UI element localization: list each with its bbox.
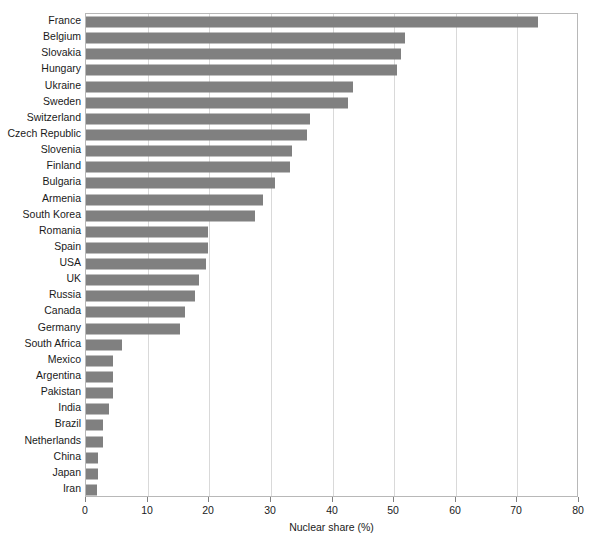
bar-row <box>86 62 577 78</box>
bar-canada <box>86 307 185 318</box>
bar-south-africa <box>86 339 122 350</box>
bar-usa <box>86 259 206 270</box>
bar-mexico <box>86 355 113 366</box>
category-label-belgium: Belgium <box>43 31 81 42</box>
bar-ukraine <box>86 81 353 92</box>
category-label-argentina: Argentina <box>36 370 81 381</box>
category-label-pakistan: Pakistan <box>41 386 81 397</box>
bar-row <box>86 159 577 175</box>
category-label-germany: Germany <box>38 322 81 333</box>
bar-bulgaria <box>86 178 275 189</box>
category-label-finland: Finland <box>47 160 81 171</box>
bar-row <box>86 450 577 466</box>
x-tick-label-40: 40 <box>326 504 338 516</box>
category-label-bulgaria: Bulgaria <box>42 176 81 187</box>
x-tick-0 <box>85 497 86 502</box>
bar-row <box>86 30 577 46</box>
bar-row <box>86 337 577 353</box>
bar-belgium <box>86 33 405 44</box>
x-tick-20 <box>208 497 209 502</box>
bar-japan <box>86 468 98 479</box>
x-tick-label-10: 10 <box>141 504 153 516</box>
category-label-slovenia: Slovenia <box>41 144 81 155</box>
category-label-japan: Japan <box>52 467 81 478</box>
category-axis-labels: FranceBelgiumSlovakiaHungaryUkraineSwede… <box>0 13 81 497</box>
bar-uk <box>86 275 199 286</box>
category-label-sweden: Sweden <box>43 96 81 107</box>
bar-argentina <box>86 371 113 382</box>
category-label-india: India <box>58 402 81 413</box>
bar-finland <box>86 162 290 173</box>
bar-armenia <box>86 194 263 205</box>
bar-row <box>86 191 577 207</box>
bar-row <box>86 143 577 159</box>
nuclear-share-bar-chart: FranceBelgiumSlovakiaHungaryUkraineSwede… <box>0 0 597 539</box>
x-tick-40 <box>332 497 333 502</box>
bar-brazil <box>86 420 103 431</box>
category-label-iran: Iran <box>63 483 81 494</box>
x-tick-label-20: 20 <box>202 504 214 516</box>
bar-row <box>86 175 577 191</box>
category-label-romania: Romania <box>39 225 81 236</box>
x-tick-label-80: 80 <box>572 504 584 516</box>
bar-row <box>86 111 577 127</box>
bar-india <box>86 404 109 415</box>
x-tick-label-60: 60 <box>449 504 461 516</box>
bar-row <box>86 272 577 288</box>
category-label-mexico: Mexico <box>48 354 81 365</box>
bar-row <box>86 256 577 272</box>
bar-row <box>86 417 577 433</box>
bar-germany <box>86 323 180 334</box>
category-label-armenia: Armenia <box>42 193 81 204</box>
bar-czech-republic <box>86 129 307 140</box>
bar-slovakia <box>86 49 401 60</box>
category-label-south-korea: South Korea <box>23 209 81 220</box>
bar-netherlands <box>86 436 103 447</box>
category-label-spain: Spain <box>54 241 81 252</box>
category-label-ukraine: Ukraine <box>45 80 81 91</box>
bar-row <box>86 321 577 337</box>
bar-row <box>86 14 577 30</box>
category-label-switzerland: Switzerland <box>27 112 81 123</box>
category-label-usa: USA <box>59 257 81 268</box>
category-label-france: France <box>48 15 81 26</box>
bar-romania <box>86 226 208 237</box>
x-tick-label-0: 0 <box>82 504 88 516</box>
bar-series <box>86 14 577 496</box>
bar-row <box>86 127 577 143</box>
bar-row <box>86 95 577 111</box>
x-tick-label-70: 70 <box>510 504 522 516</box>
bar-row <box>86 304 577 320</box>
x-tick-70 <box>516 497 517 502</box>
bar-pakistan <box>86 388 113 399</box>
bar-china <box>86 452 98 463</box>
x-tick-30 <box>270 497 271 502</box>
bar-row <box>86 353 577 369</box>
x-tick-60 <box>455 497 456 502</box>
bar-row <box>86 369 577 385</box>
category-label-czech-republic: Czech Republic <box>7 128 81 139</box>
category-label-south-africa: South Africa <box>24 338 81 349</box>
bar-row <box>86 401 577 417</box>
x-tick-80 <box>578 497 579 502</box>
bar-russia <box>86 291 195 302</box>
category-label-canada: Canada <box>44 305 81 316</box>
category-label-russia: Russia <box>49 289 81 300</box>
category-label-netherlands: Netherlands <box>24 435 81 446</box>
category-label-china: China <box>54 451 81 462</box>
category-label-uk: UK <box>66 273 81 284</box>
bar-france <box>86 17 538 28</box>
bar-row <box>86 433 577 449</box>
bar-hungary <box>86 65 397 76</box>
x-tick-label-30: 30 <box>264 504 276 516</box>
bar-row <box>86 208 577 224</box>
bar-row <box>86 466 577 482</box>
bar-row <box>86 482 577 498</box>
x-tick-50 <box>393 497 394 502</box>
plot-area <box>85 13 578 497</box>
bar-spain <box>86 242 208 253</box>
bar-iran <box>86 484 97 495</box>
bar-row <box>86 46 577 62</box>
bar-row <box>86 240 577 256</box>
category-label-slovakia: Slovakia <box>41 47 81 58</box>
